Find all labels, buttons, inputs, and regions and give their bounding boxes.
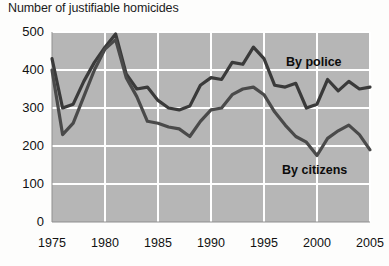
x-axis-tick-label: 2000	[294, 236, 340, 250]
x-axis-tick-label: 1985	[135, 236, 181, 250]
x-axis-tick-label: 1990	[188, 236, 234, 250]
x-axis-tick-label: 2005	[347, 236, 389, 250]
x-axis-tick-label: 1995	[241, 236, 287, 250]
y-axis-tick-label: 400	[4, 62, 44, 77]
y-axis-tick-label: 500	[4, 24, 44, 39]
x-axis-tick-label: 1980	[82, 236, 128, 250]
x-axis-tick-label: 1975	[29, 236, 75, 250]
chart-container: Number of justifiable homicides 50040030…	[0, 0, 389, 266]
y-axis-tick-label: 100	[4, 176, 44, 191]
chart-svg	[0, 0, 389, 266]
plot-area: 5004003002001000197519801985199019952000…	[0, 0, 389, 266]
y-axis-tick-label: 0	[4, 214, 44, 229]
y-axis-tick-label: 300	[4, 100, 44, 115]
series-label-by-police: By police	[286, 55, 342, 69]
series-label-by-citizens: By citizens	[282, 163, 347, 177]
y-axis-tick-label: 200	[4, 138, 44, 153]
